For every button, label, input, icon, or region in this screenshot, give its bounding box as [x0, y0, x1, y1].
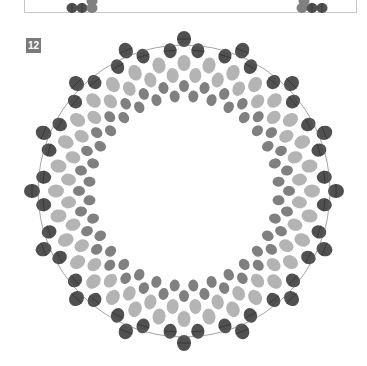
- bead-medium: [250, 109, 266, 125]
- bead-medium: [188, 279, 199, 292]
- bead-medium: [169, 90, 180, 103]
- bead-medium: [235, 96, 250, 112]
- bead-light: [49, 158, 67, 174]
- bead-light: [61, 173, 77, 186]
- bead-medium: [132, 267, 146, 282]
- bead-medium: [280, 164, 294, 176]
- bead-light: [292, 133, 312, 151]
- bead-light: [103, 287, 123, 308]
- bead-light: [178, 311, 191, 327]
- bead-light: [189, 298, 202, 314]
- bead-light: [286, 149, 304, 165]
- bead-light: [142, 293, 158, 311]
- bead-medium: [150, 275, 163, 289]
- bead-light: [280, 110, 301, 130]
- bead-medium: [280, 205, 294, 217]
- bead-medium: [86, 212, 100, 225]
- bead-light: [166, 68, 179, 84]
- bead-medium: [118, 271, 133, 287]
- bead-light: [101, 271, 120, 290]
- bead-light: [85, 255, 104, 274]
- bead-light: [178, 55, 191, 71]
- bead-light: [264, 255, 283, 274]
- bead-light: [245, 287, 265, 308]
- bead-medium: [250, 123, 266, 138]
- bead-light: [286, 217, 304, 233]
- bead-medium: [74, 205, 88, 217]
- bead-light: [264, 271, 285, 292]
- bead-medium: [80, 144, 95, 158]
- bead-medium: [102, 257, 118, 273]
- bead-light: [85, 108, 104, 127]
- beaded-ring-diagram: [0, 0, 367, 366]
- bead-light: [264, 108, 283, 127]
- bead-light: [72, 237, 91, 255]
- bead-light: [189, 68, 202, 84]
- bead-light: [126, 63, 144, 83]
- bead-light: [300, 158, 318, 174]
- bead-medium: [260, 229, 275, 243]
- bead-light: [101, 92, 120, 111]
- bead-light: [142, 71, 158, 89]
- bead-light: [48, 185, 64, 198]
- bead-light: [83, 271, 104, 292]
- bead-medium: [80, 224, 95, 238]
- bead-light: [248, 271, 267, 290]
- bead-medium: [237, 110, 252, 126]
- bead-medium: [235, 271, 250, 287]
- bead-light: [61, 196, 77, 209]
- bead-light: [291, 173, 307, 186]
- bead-light: [304, 185, 320, 198]
- bead-light: [151, 307, 167, 325]
- bead-light: [64, 149, 82, 165]
- bead-medium: [250, 244, 266, 259]
- bead-light: [201, 307, 217, 325]
- bead-medium: [103, 244, 119, 259]
- bead-medium: [132, 100, 146, 115]
- bead-medium: [205, 93, 218, 107]
- bead-medium: [89, 125, 105, 140]
- bead-medium: [283, 186, 295, 196]
- bead-medium: [274, 144, 289, 158]
- bead-light: [166, 298, 179, 314]
- bead-medium: [137, 281, 151, 296]
- bead-medium: [272, 195, 285, 206]
- bead-light: [126, 299, 144, 319]
- bead-medium: [169, 279, 180, 292]
- bead-light: [49, 208, 67, 224]
- bead-light: [64, 217, 82, 233]
- bead-medium: [83, 176, 96, 187]
- bead-light: [230, 79, 248, 98]
- bead-medium: [260, 139, 275, 153]
- bead-medium: [137, 87, 151, 102]
- bead-medium: [179, 80, 189, 92]
- bead-medium: [250, 257, 266, 273]
- bead-medium: [103, 123, 119, 138]
- bead-medium: [157, 81, 169, 95]
- bead-medium: [73, 186, 85, 196]
- bead-light: [224, 63, 242, 83]
- bead-light: [245, 74, 265, 95]
- bead-light: [277, 237, 296, 255]
- bead-light: [280, 252, 301, 272]
- bead-light: [67, 252, 88, 272]
- bead-light: [120, 79, 138, 98]
- bead-medium: [150, 93, 163, 107]
- bead-medium: [264, 125, 280, 140]
- bead-medium: [116, 110, 131, 126]
- bead-light: [56, 133, 76, 151]
- bead-light: [67, 110, 88, 130]
- bead-light: [277, 127, 296, 145]
- bead-medium: [222, 267, 236, 282]
- bead-light: [56, 231, 76, 249]
- bead-light: [230, 284, 248, 303]
- bead-medium: [93, 229, 108, 243]
- bead-medium: [268, 212, 282, 225]
- bead-medium: [237, 257, 252, 273]
- bead-medium: [102, 109, 118, 125]
- bead-light: [291, 196, 307, 209]
- bead-light: [103, 74, 123, 95]
- bead-medium: [89, 242, 105, 257]
- bead-medium: [188, 90, 199, 103]
- bead-medium: [264, 242, 280, 257]
